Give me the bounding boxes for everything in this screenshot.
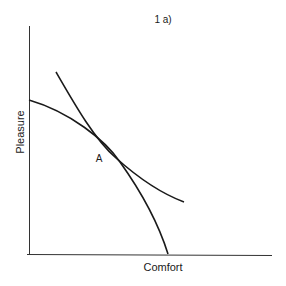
- figure: 1 a) Pleasure Comfort A: [0, 0, 286, 286]
- x-axis: [27, 255, 272, 256]
- chart-title: 1 a): [154, 14, 171, 25]
- x-axis-label: Comfort: [143, 261, 182, 273]
- chart-svg: 1 a) Pleasure Comfort A: [0, 0, 286, 286]
- point-label-a: A: [96, 153, 103, 164]
- frontier-curve: [29, 100, 168, 254]
- y-axis-label: Pleasure: [14, 110, 26, 153]
- indifference-curve: [56, 72, 184, 202]
